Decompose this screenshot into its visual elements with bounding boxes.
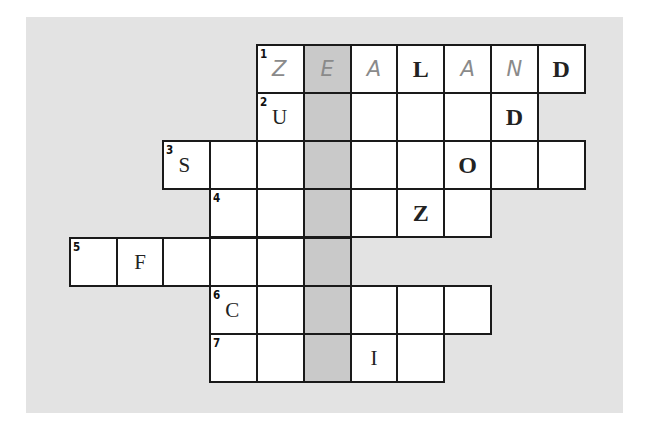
grid-cell[interactable]: O — [443, 140, 492, 190]
grid-cell[interactable] — [443, 188, 492, 238]
grid-cell[interactable]: D — [537, 44, 586, 94]
grid-cell[interactable]: F — [116, 237, 165, 287]
cell-letter: E — [305, 58, 350, 79]
grid-cell[interactable] — [350, 188, 399, 238]
grid-cell[interactable] — [303, 140, 352, 190]
cell-letter: A — [352, 58, 397, 79]
grid-cell[interactable] — [350, 92, 399, 142]
cell-letter: O — [445, 153, 490, 177]
cell-letter: I — [352, 348, 397, 369]
grid-cell[interactable]: 2U — [256, 92, 305, 142]
grid-cell[interactable] — [256, 140, 305, 190]
cell-letter: D — [492, 105, 537, 129]
grid-cell[interactable] — [256, 237, 305, 287]
clue-number: 6 — [213, 287, 220, 302]
grid-cell[interactable]: Z — [396, 188, 445, 238]
grid-cell[interactable]: A — [443, 44, 492, 94]
grid-cell[interactable]: 6C — [209, 285, 258, 335]
grid-cell[interactable]: N — [490, 44, 539, 94]
cell-letter: Z — [272, 58, 303, 79]
cell-letter: Z — [398, 201, 443, 225]
grid-cell[interactable]: 5 — [69, 237, 118, 287]
grid-cell[interactable] — [350, 140, 399, 190]
cell-letter: F — [118, 251, 163, 272]
grid-cell[interactable]: I — [350, 333, 399, 383]
clue-number: 3 — [166, 142, 173, 157]
cell-letter: C — [225, 299, 256, 320]
grid-cell[interactable]: E — [303, 44, 352, 94]
grid-cell[interactable] — [490, 140, 539, 190]
grid-cell[interactable] — [443, 92, 492, 142]
clue-number: 7 — [213, 335, 220, 350]
grid-cell[interactable] — [209, 140, 258, 190]
grid-cell[interactable] — [396, 333, 445, 383]
grid-cell[interactable] — [256, 285, 305, 335]
grid-cell[interactable]: A — [350, 44, 399, 94]
grid-cell[interactable] — [303, 188, 352, 238]
clue-number: 5 — [73, 239, 80, 254]
cell-letter: N — [492, 58, 537, 79]
grid-cell[interactable] — [303, 92, 352, 142]
cell-letter: U — [272, 107, 303, 128]
grid-cell[interactable] — [256, 333, 305, 383]
grid-cell[interactable] — [396, 285, 445, 335]
grid-cell[interactable]: 3S — [162, 140, 211, 190]
grid-cell[interactable] — [350, 285, 399, 335]
grid-cell[interactable] — [396, 140, 445, 190]
cell-letter: S — [178, 155, 209, 176]
grid-cell[interactable] — [303, 285, 352, 335]
grid-cell[interactable] — [303, 237, 352, 287]
grid-cell[interactable]: D — [490, 92, 539, 142]
grid-cell[interactable]: 7 — [209, 333, 258, 383]
grid-cell[interactable]: L — [396, 44, 445, 94]
grid-cell[interactable] — [303, 333, 352, 383]
clue-number: 2 — [260, 94, 267, 109]
cell-letter: A — [445, 58, 490, 79]
clue-number: 1 — [260, 46, 267, 61]
clue-number: 4 — [213, 190, 220, 205]
grid-cell[interactable] — [537, 140, 586, 190]
grid-cell[interactable] — [256, 188, 305, 238]
grid-cell[interactable] — [396, 92, 445, 142]
grid-cell[interactable] — [209, 237, 258, 287]
grid-cell[interactable]: 4 — [209, 188, 258, 238]
grid-cell[interactable] — [443, 285, 492, 335]
grid-cell[interactable] — [162, 237, 211, 287]
cell-letter: L — [398, 57, 443, 81]
grid-cell[interactable]: 1Z — [256, 44, 305, 94]
cell-letter: D — [539, 57, 584, 81]
